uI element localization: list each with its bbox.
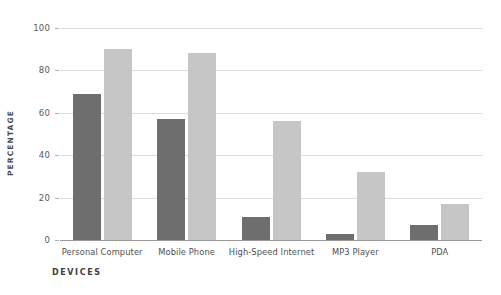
x-axis-category-label: Personal Computer	[60, 247, 144, 257]
y-tick-label: 80	[2, 65, 50, 75]
y-tick-label: 60	[2, 108, 50, 118]
y-tick-label: 40	[2, 150, 50, 160]
bar	[157, 119, 185, 240]
y-tick-mark	[55, 70, 59, 71]
bar	[73, 94, 101, 240]
bar	[188, 53, 216, 240]
x-axis-category-label: Mobile Phone	[144, 247, 228, 257]
bar	[357, 172, 385, 240]
bar-chart: PERCENTAGE DEVICES 020406080100 Personal…	[0, 0, 501, 295]
y-tick-label: 20	[2, 193, 50, 203]
y-tick-mark	[55, 28, 59, 29]
y-tick-mark	[55, 113, 59, 114]
y-tick-label: 100	[2, 23, 50, 33]
bar	[441, 204, 469, 240]
x-axis-category-label: PDA	[398, 247, 482, 257]
bar	[326, 234, 354, 240]
bar	[273, 121, 301, 240]
x-axis-title: DEVICES	[52, 268, 102, 277]
x-axis-category-label: High-Speed Internet	[229, 247, 313, 257]
y-axis-title: PERCENTAGE	[6, 76, 15, 176]
y-tick-mark	[55, 198, 59, 199]
bar	[410, 225, 438, 240]
y-tick-mark	[55, 155, 59, 156]
bar	[242, 217, 270, 240]
y-tick-mark	[55, 240, 59, 241]
axis-baseline	[60, 240, 482, 241]
x-axis-category-label: MP3 Player	[313, 247, 397, 257]
plot-area	[60, 28, 482, 240]
gridline	[60, 28, 482, 29]
bar	[104, 49, 132, 240]
y-tick-label: 0	[2, 235, 50, 245]
